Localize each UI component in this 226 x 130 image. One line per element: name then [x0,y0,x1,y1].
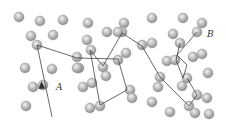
diffusion-diagram: AB [0,0,226,130]
atom [26,31,36,41]
atom [48,30,58,40]
atom [83,18,93,28]
atom [197,49,207,59]
atom [147,13,157,23]
atom [58,15,68,25]
path-group [37,32,197,117]
atom [127,93,137,103]
atom [197,18,207,28]
diffusion-path-a [37,33,197,117]
atom [20,63,30,73]
atom [121,48,131,58]
atom [153,82,163,92]
atom [35,16,45,26]
atom [165,107,175,117]
atom [204,109,214,119]
atom [14,12,24,22]
atom [85,103,95,113]
atom [147,38,157,48]
atom [178,13,188,23]
atom [47,64,57,74]
atom-group [14,12,214,119]
atom [95,101,105,111]
path-label-a: A [55,82,63,92]
atom [78,82,88,92]
atom [82,35,92,45]
path-label-b: B [206,29,214,39]
atom [147,97,157,107]
atom [203,68,213,78]
atom [72,63,82,73]
atom [137,40,147,50]
atom [28,82,38,92]
atom [188,52,198,62]
atom [113,27,123,37]
atom [21,101,31,111]
atom [168,29,178,39]
atom [202,93,212,103]
atom [119,18,129,28]
atom [101,71,111,81]
atom [98,62,108,72]
atom [102,27,112,37]
atom [190,108,200,118]
